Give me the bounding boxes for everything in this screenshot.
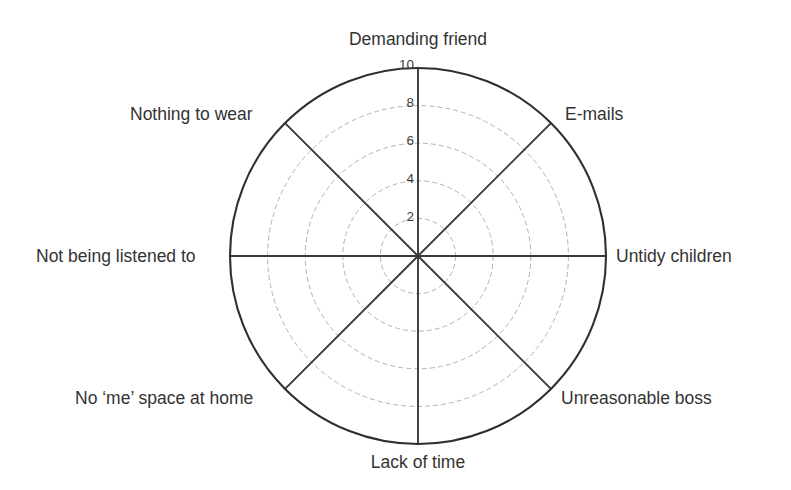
spoke-southeast — [418, 256, 551, 389]
axis-label-not-being-listened-to: Not being listened to — [36, 246, 196, 266]
axis-label-demanding-friend: Demanding friend — [349, 29, 487, 49]
axis-label-nothing-to-wear: Nothing to wear — [130, 104, 253, 124]
tick-label-10: 10 — [392, 58, 414, 72]
radar-plot-area — [0, 0, 791, 490]
radar-chart: 10 8 6 4 2 Demanding friend E-mails Unti… — [0, 0, 791, 490]
axis-label-untidy-children: Untidy children — [616, 246, 732, 266]
tick-label-6: 6 — [392, 134, 414, 148]
spoke-northeast — [418, 123, 551, 256]
tick-label-4: 4 — [392, 172, 414, 186]
tick-label-2: 2 — [392, 210, 414, 224]
axis-spokes — [230, 68, 606, 444]
tick-label-8: 8 — [392, 96, 414, 110]
axis-label-no-me-space-at-home: No ‘me’ space at home — [75, 388, 253, 408]
axis-label-lack-of-time: Lack of time — [371, 452, 465, 472]
spoke-southwest — [285, 256, 418, 389]
axis-label-unreasonable-boss: Unreasonable boss — [561, 388, 712, 408]
axis-label-e-mails: E-mails — [565, 104, 623, 124]
